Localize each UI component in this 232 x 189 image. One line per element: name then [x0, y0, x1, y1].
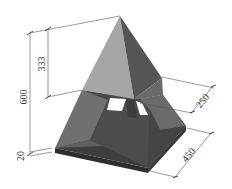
dimension-label-20: 20 — [15, 151, 26, 161]
dimension-label-333: 333 — [36, 57, 47, 72]
dimension-label-450: 450 — [179, 145, 197, 164]
dimension-upper-height: 333 — [36, 27, 82, 99]
dimension-base-thickness: 20 — [15, 148, 52, 161]
dimension-label-600: 600 — [18, 90, 29, 105]
pyramid-diagram: 600 333 20 250 450 — [0, 0, 232, 189]
upper-pyramid — [82, 16, 163, 99]
